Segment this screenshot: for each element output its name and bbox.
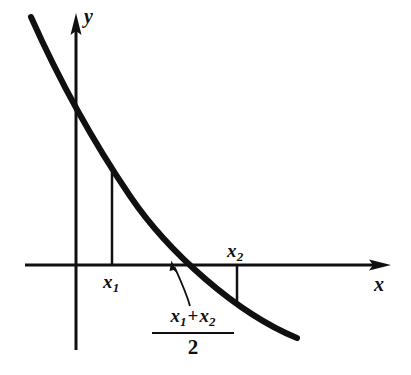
fraction-numerator-x1-subscript: 1 bbox=[180, 314, 187, 329]
x1-label-base: x bbox=[103, 271, 113, 292]
fraction-bar bbox=[152, 332, 234, 335]
midpoint-arrowhead bbox=[170, 261, 178, 274]
fraction-numerator: x1+x2 bbox=[152, 306, 234, 329]
math-figure: y x x1 x2 x1+x2 2 bbox=[0, 0, 411, 375]
y-axis-label: y bbox=[84, 6, 93, 26]
x2-label: x2 bbox=[227, 241, 243, 263]
fraction-denominator: 2 bbox=[152, 336, 234, 358]
midpoint-fraction: x1+x2 2 bbox=[152, 306, 234, 358]
x1-label: x1 bbox=[103, 272, 119, 294]
x-axis bbox=[25, 260, 391, 271]
x1-label-subscript: 1 bbox=[113, 280, 120, 295]
fraction-numerator-x2-base: x bbox=[199, 305, 209, 326]
fraction-plus-operator: + bbox=[188, 305, 199, 326]
fraction-numerator-x1-base: x bbox=[171, 305, 181, 326]
y-axis bbox=[71, 13, 82, 350]
x-axis-label: x bbox=[374, 274, 384, 294]
fraction-numerator-x2-subscript: 2 bbox=[209, 314, 216, 329]
x2-label-base: x bbox=[227, 240, 237, 261]
convex-curve bbox=[31, 17, 297, 338]
x2-label-subscript: 2 bbox=[237, 249, 244, 264]
